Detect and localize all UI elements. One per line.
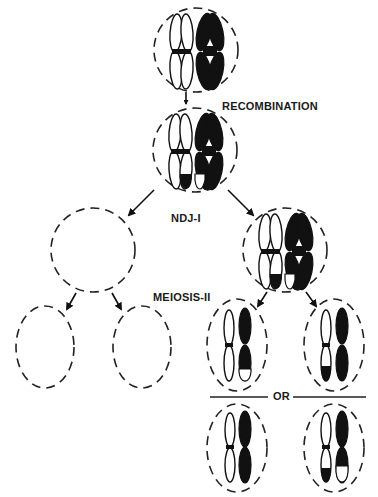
open-homolog-ndj <box>258 214 284 290</box>
ndj-empty-cell <box>51 208 135 292</box>
m2-arrow-right-2 <box>306 292 316 306</box>
meiosis2-empty-right <box>113 306 171 388</box>
m2-arrow-right-1 <box>258 292 267 306</box>
meiosis-diagram <box>0 0 378 497</box>
recombined-cell <box>153 108 237 192</box>
m2-arrow-left-1 <box>67 293 76 309</box>
meiosis2-label: MEIOSIS-II <box>153 291 211 303</box>
or-label: OR <box>271 390 292 402</box>
premeiotic-cell <box>154 8 238 92</box>
m2-arrow-left-2 <box>112 293 121 309</box>
meiosis2-disomic-a2 <box>304 299 364 391</box>
meiosis2-disomic-b1 <box>207 404 267 492</box>
meiosis2-disomic-a1 <box>207 299 267 391</box>
recombination-label: RECOMBINATION <box>222 100 318 112</box>
solid-homolog-recombined <box>192 112 226 191</box>
open-homolog-recombined <box>168 114 194 190</box>
solid-homolog-ndj <box>282 212 316 291</box>
ndj-disomic-cell <box>243 208 327 292</box>
meiosis2-empty-left <box>16 306 74 388</box>
ndj-arrow-right <box>228 190 253 215</box>
ndj-arrow-left <box>129 190 154 215</box>
ndj-label: NDJ-I <box>171 212 201 224</box>
open-homolog <box>169 14 195 90</box>
solid-homolog <box>193 12 227 91</box>
meiosis2-disomic-b2 <box>304 404 364 492</box>
